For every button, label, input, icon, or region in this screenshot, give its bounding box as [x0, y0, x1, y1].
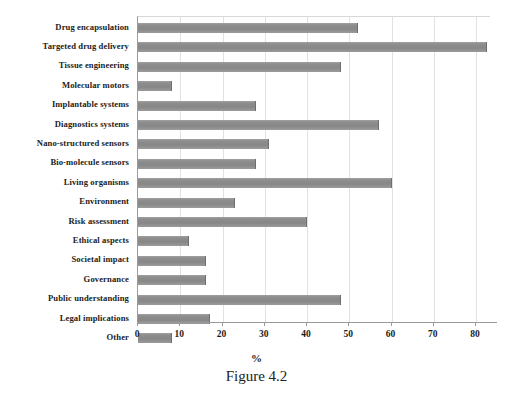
- bar: [138, 101, 256, 111]
- figure-container: Drug encapsulationTargeted drug delivery…: [0, 0, 513, 394]
- x-axis-tick-label: 10: [164, 329, 194, 339]
- x-axis-tick-label: 50: [333, 329, 363, 339]
- x-axis-tick-label: 0: [122, 329, 152, 339]
- category-label: Ethical aspects: [0, 235, 129, 245]
- gridline: [392, 17, 393, 322]
- x-axis-tick: [391, 322, 392, 326]
- x-axis-tick: [433, 322, 434, 326]
- x-axis-tick-label: 40: [291, 329, 321, 339]
- category-label: Societal impact: [0, 254, 129, 264]
- x-axis-tick: [306, 322, 307, 326]
- x-axis-tick-label: 80: [460, 329, 490, 339]
- bar: [138, 120, 379, 130]
- gridline: [349, 17, 350, 322]
- bar: [138, 217, 307, 227]
- bar: [138, 178, 392, 188]
- x-axis-tick: [264, 322, 265, 326]
- bar: [138, 275, 206, 285]
- category-label: Targeted drug delivery: [0, 41, 129, 51]
- bar: [138, 42, 487, 52]
- category-label: Legal implications: [0, 313, 129, 323]
- category-label: Tissue engineering: [0, 60, 129, 70]
- x-axis-tick-label: 70: [418, 329, 448, 339]
- x-axis-title: %: [0, 352, 513, 364]
- plot-area: [137, 16, 490, 322]
- bar: [138, 295, 341, 305]
- x-axis-tick: [179, 322, 180, 326]
- bar: [138, 198, 235, 208]
- bar: [138, 139, 269, 149]
- category-label: Molecular motors: [0, 80, 129, 90]
- x-axis-tick: [137, 322, 138, 326]
- figure-caption: Figure 4.2: [0, 368, 513, 385]
- category-label: Risk assessment: [0, 216, 129, 226]
- category-label: Nano-structured sensors: [0, 138, 129, 148]
- category-label: Other: [0, 332, 129, 342]
- bar: [138, 81, 172, 91]
- category-label: Diagnostics systems: [0, 119, 129, 129]
- bar: [138, 236, 189, 246]
- category-label: Environment: [0, 196, 129, 206]
- category-label: Bio-molecule sensors: [0, 157, 129, 167]
- x-axis-tick: [222, 322, 223, 326]
- category-label: Implantable systems: [0, 99, 129, 109]
- x-axis-tick-label: 20: [207, 329, 237, 339]
- category-label-column: Drug encapsulationTargeted drug delivery…: [0, 16, 133, 322]
- x-axis-tick-label: 60: [376, 329, 406, 339]
- x-axis-line: [137, 322, 497, 323]
- category-label: Public understanding: [0, 293, 129, 303]
- x-axis-tick-label: 30: [249, 329, 279, 339]
- x-axis-tick: [348, 322, 349, 326]
- category-label: Governance: [0, 274, 129, 284]
- bar: [138, 256, 206, 266]
- bar: [138, 23, 358, 33]
- gridline: [476, 17, 477, 322]
- bar: [138, 62, 341, 72]
- bar: [138, 159, 256, 169]
- gridline: [434, 17, 435, 322]
- category-label: Living organisms: [0, 177, 129, 187]
- x-axis-tick: [475, 322, 476, 326]
- category-label: Drug encapsulation: [0, 22, 129, 32]
